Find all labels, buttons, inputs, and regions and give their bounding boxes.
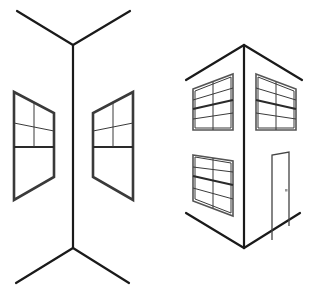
right-wall-window (93, 92, 133, 200)
upper-right-window (256, 74, 296, 130)
perspective-illustration: Two-point perspective line drawings: an … (0, 0, 310, 294)
door (272, 152, 289, 240)
lower-left-window (193, 155, 233, 216)
ceiling-corner-lines (17, 11, 130, 45)
exterior-corner-drawing (186, 45, 302, 248)
left-wall-window (14, 92, 54, 200)
interior-corner-drawing (14, 11, 133, 283)
upper-left-window (193, 74, 233, 130)
door-knob (285, 189, 288, 192)
floor-corner-lines (16, 248, 129, 283)
